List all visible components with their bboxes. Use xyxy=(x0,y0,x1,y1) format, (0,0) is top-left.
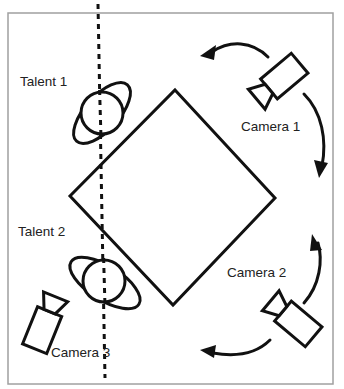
camera-1-arc-left-arrow xyxy=(200,44,268,60)
camera-1-label: Camera 1 xyxy=(241,119,300,134)
diagram-canvas: Talent 1 Camera 1 Talent 2 Camera 2 Came… xyxy=(0,0,344,389)
camera-2-arc-up-arrow xyxy=(304,234,322,303)
camera-2-label: Camera 2 xyxy=(227,265,286,280)
diagram-svg: Talent 1 Camera 1 Talent 2 Camera 2 Came… xyxy=(0,0,344,389)
talent-1-label: Talent 1 xyxy=(20,74,67,89)
talent-1-figure xyxy=(64,73,140,152)
camera-1-arc-down-arrow xyxy=(304,94,328,178)
axis-line-dashed xyxy=(98,4,105,378)
camera-1-icon xyxy=(248,53,308,109)
camera-3-label: Camera 3 xyxy=(51,345,110,360)
camera-2-icon xyxy=(262,291,322,347)
talent-2-label: Talent 2 xyxy=(18,224,65,239)
talent-1-head xyxy=(81,92,123,134)
camera-2-arc-left-arrow xyxy=(200,340,270,358)
